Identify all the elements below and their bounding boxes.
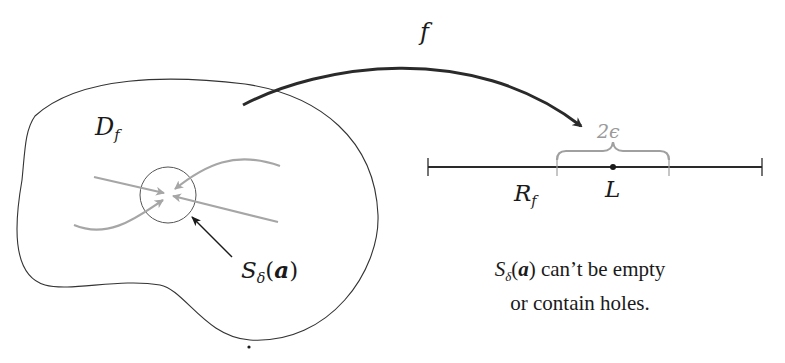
neighborhood-label-open: ( [265,257,274,283]
caption-s-main: S [495,257,506,281]
approach-path-lower-left [74,200,163,230]
approach-path-lower-right [173,196,278,222]
limit-point [610,164,616,170]
neighborhood-label-arg: a [274,256,289,283]
neighborhood-label-main: S [241,257,257,283]
domain-region-outline [17,79,378,340]
neighborhood-pointer-arrow [192,217,232,257]
neighborhood-label-close: ) [289,257,298,283]
approach-path-upper-right [175,159,280,189]
caption-line-1-rest: can’t be empty [536,257,666,281]
function-label-text: f [420,18,429,46]
neighborhood-circle [140,167,196,223]
caption-line-1: Sδ(a) can’t be empty [460,256,700,290]
caption-close: ) [529,257,536,281]
diagram-canvas: f Df 2ϵ Rf L Sδ(a) Sδ(a) can’t be empty … [0,0,785,363]
domain-label-main: D [95,113,114,141]
caption: Sδ(a) can’t be empty or contain holes. [460,256,700,316]
epsilon-width-label: 2ϵ [597,120,620,142]
function-label: f [420,18,429,46]
range-label-sub: f [531,193,536,209]
range-label-main: R [514,180,531,206]
limit-label-text: L [605,176,620,202]
stray-dot [247,345,250,348]
epsilon-brace [557,142,669,160]
caption-arg: a [518,257,529,281]
neighborhood-label: Sδ(a) [241,256,298,286]
caption-line-2: or contain holes. [460,290,700,316]
range-label: Rf [514,180,537,209]
epsilon-width-text: 2ϵ [597,120,620,142]
limit-label: L [605,176,620,202]
domain-label-sub: f [114,126,120,144]
approach-path-upper-left [94,177,164,193]
domain-label: Df [95,113,120,144]
